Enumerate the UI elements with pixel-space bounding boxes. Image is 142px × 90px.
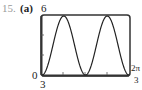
- chart-plot: [0, 0, 142, 90]
